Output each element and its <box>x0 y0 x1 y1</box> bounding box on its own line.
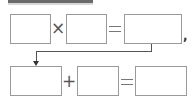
row2-operand-box-1[interactable] <box>10 66 62 96</box>
row1-result-box[interactable] <box>124 14 182 44</box>
row1-operand-box-1[interactable] <box>10 14 51 44</box>
connector-line-down-from-result <box>151 44 152 51</box>
row2-operand-box-2[interactable] <box>77 66 119 96</box>
equals-sign-row2 <box>121 79 133 85</box>
comma-mark: , <box>183 30 188 42</box>
equals-sign-row1 <box>109 26 121 32</box>
connector-line-horizontal <box>36 51 152 52</box>
plus-sign: + <box>62 73 76 90</box>
row1-operand-box-2[interactable] <box>66 14 107 44</box>
row2-result-box[interactable] <box>135 66 187 96</box>
cropped-header-shadow <box>8 3 93 5</box>
multiply-sign: × <box>51 20 65 37</box>
